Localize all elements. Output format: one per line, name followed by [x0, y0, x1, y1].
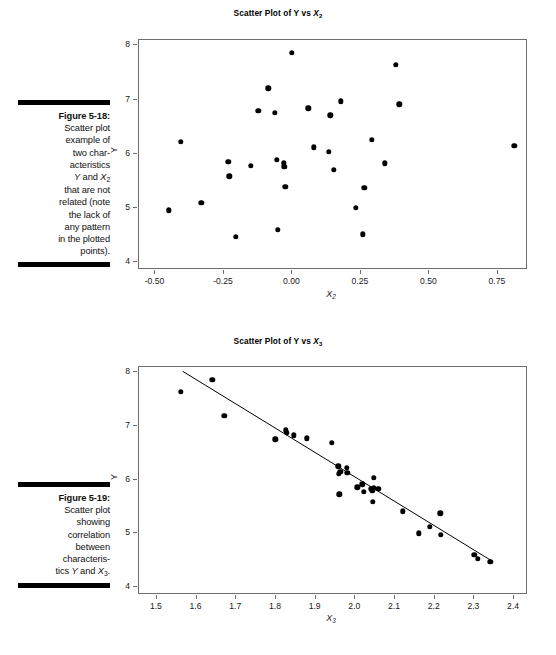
- data-point: [306, 105, 311, 110]
- plot-area-2: [138, 366, 527, 594]
- y-tick: [133, 586, 137, 587]
- figure-5-18-caption: Figure 5-18: Scatter plot example of two…: [18, 100, 110, 267]
- data-point: [397, 102, 402, 107]
- x-tick-label: 1.7: [229, 601, 241, 611]
- y-tick-label: 7: [112, 94, 130, 104]
- x-tick: [291, 270, 292, 274]
- data-point: [331, 167, 336, 172]
- data-point: [281, 164, 286, 169]
- caption-line: two char-: [18, 147, 110, 159]
- x-tick-label: 2.0: [348, 601, 360, 611]
- caption-line: tics Y and X3.: [18, 565, 110, 578]
- data-point: [226, 159, 231, 164]
- y-tick-label: 5: [112, 202, 130, 212]
- y-tick-label: 5: [112, 527, 130, 537]
- x-tick-label: -0.50: [145, 276, 165, 286]
- x-tick: [473, 595, 474, 599]
- y-tick-label: 4: [112, 581, 130, 591]
- caption-line: acteristics: [18, 159, 110, 171]
- data-point: [289, 50, 294, 55]
- caption-line: related (note: [18, 196, 110, 208]
- data-point: [512, 143, 517, 148]
- x-tick: [156, 595, 157, 599]
- x-tick: [275, 595, 276, 599]
- x-tick: [196, 595, 197, 599]
- data-point: [233, 234, 238, 239]
- x-tick-label: 2.1: [388, 601, 400, 611]
- figure-number: Figure 5-18:: [18, 110, 110, 122]
- caption-line: showing: [18, 516, 110, 528]
- x-tick-label: 2.3: [467, 601, 479, 611]
- regression-line: [139, 367, 528, 595]
- figure-5-19: Scatter Plot of Y vs X3 Figure 5-19: Sca…: [0, 330, 556, 655]
- x-axis-label-2: X3: [326, 613, 336, 623]
- x-tick-label: 1.6: [190, 601, 202, 611]
- y-tick: [133, 99, 137, 100]
- data-point: [353, 205, 358, 210]
- y-tick: [133, 425, 137, 426]
- y-tick-label: 6: [112, 474, 130, 484]
- data-point: [248, 163, 253, 168]
- x-tick-label: 2.2: [428, 601, 440, 611]
- data-point: [166, 208, 171, 213]
- caption-text: Figure 5-18: Scatter plot example of two…: [18, 105, 110, 262]
- y-tick-label: 4: [112, 256, 130, 266]
- data-point: [198, 200, 203, 205]
- caption-line: Scatter plot: [18, 122, 110, 134]
- x-tick: [428, 270, 429, 274]
- y-tick-label: 7: [112, 420, 130, 430]
- chart-title-1: Scatter Plot of Y vs X2: [0, 8, 556, 18]
- caption-line: the lack of: [18, 209, 110, 221]
- data-point: [393, 62, 398, 67]
- x-tick: [235, 595, 236, 599]
- x-tick: [360, 270, 361, 274]
- y-tick: [133, 44, 137, 45]
- data-point: [178, 139, 183, 144]
- data-point: [328, 113, 333, 118]
- data-point: [338, 98, 343, 103]
- caption-line: points).: [18, 245, 110, 257]
- x-tick-label: 1.8: [269, 601, 281, 611]
- data-point: [275, 227, 280, 232]
- x-tick-label: 0.75: [488, 276, 505, 286]
- caption-rule-bottom: [18, 262, 110, 267]
- x-tick-label: 1.5: [150, 601, 162, 611]
- x-tick: [354, 595, 355, 599]
- x-tick: [513, 595, 514, 599]
- caption-line: any pattern: [18, 221, 110, 233]
- x-tick: [497, 270, 498, 274]
- data-point: [266, 85, 271, 90]
- figure-5-19-caption: Figure 5-19: Scatter plot showing correl…: [18, 482, 110, 588]
- data-point: [272, 110, 277, 115]
- y-tick: [133, 479, 137, 480]
- x-tick-label: 2.4: [507, 601, 519, 611]
- x-tick-label: 0.50: [420, 276, 437, 286]
- x-tick-label: -0.25: [213, 276, 233, 286]
- caption-line: example of: [18, 134, 110, 146]
- data-point: [382, 161, 387, 166]
- caption-line: in the plotted: [18, 233, 110, 245]
- caption-line: between: [18, 541, 110, 553]
- figure-5-18: Scatter Plot of Y vs X2 Figure 5-18: Sca…: [0, 0, 556, 330]
- y-tick: [133, 207, 137, 208]
- y-tick: [133, 532, 137, 533]
- y-tick: [133, 153, 137, 154]
- caption-line: correlation: [18, 529, 110, 541]
- data-point: [369, 137, 374, 142]
- x-tick: [394, 595, 395, 599]
- caption-line: characteris-: [18, 553, 110, 565]
- caption-line: Y and X2: [18, 171, 110, 184]
- caption-text: Figure 5-19: Scatter plot showing correl…: [18, 487, 110, 583]
- plot-area-1: [138, 39, 527, 269]
- caption-line: Scatter plot: [18, 504, 110, 516]
- x-tick: [434, 595, 435, 599]
- x-tick: [315, 595, 316, 599]
- caption-line: that are not: [18, 184, 110, 196]
- data-point: [311, 144, 316, 149]
- chart-title-2: Scatter Plot of Y vs X3: [0, 336, 556, 346]
- caption-rule-bottom: [18, 583, 110, 588]
- data-point: [274, 157, 279, 162]
- y-tick: [133, 261, 137, 262]
- chart-title-2-text: Scatter Plot of Y vs X3: [234, 336, 323, 346]
- x-tick-label: 1.9: [309, 601, 321, 611]
